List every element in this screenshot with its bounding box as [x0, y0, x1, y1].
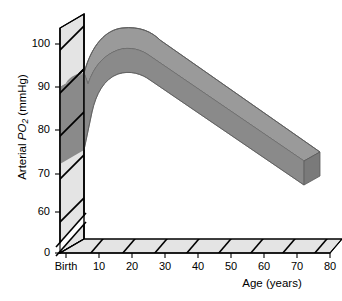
data-band — [84, 28, 320, 185]
x-tick-label-80: 80 — [310, 260, 342, 272]
y-axis-ticks — [55, 44, 60, 253]
x-axis-ticks — [66, 253, 330, 258]
chart-svg — [0, 0, 342, 301]
y-tick-label-70: 70 — [16, 167, 50, 179]
y-tick-label-0: 0 — [16, 246, 50, 258]
y-tick-label-80: 80 — [16, 123, 50, 135]
x-axis-title: Age (years) — [212, 277, 332, 289]
chart-figure: Arterial PO2 (mmHg) 100 90 80 70 60 0 Bi… — [0, 0, 342, 301]
y-tick-label-100: 100 — [16, 37, 50, 49]
y-tick-label-90: 90 — [16, 80, 50, 92]
y-tick-label-60: 60 — [16, 205, 50, 217]
